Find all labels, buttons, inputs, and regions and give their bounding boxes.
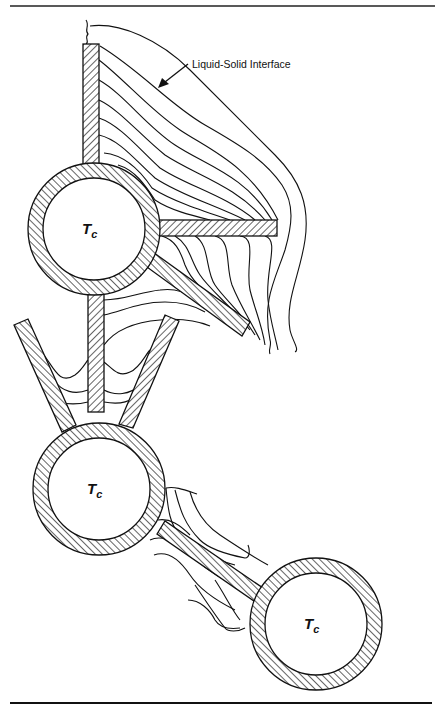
tube-3-assembly: Tc	[157, 521, 382, 690]
interface-annotation: Liquid-Solid Interface	[158, 58, 291, 88]
fin-horizontal	[150, 220, 277, 236]
figure-canvas: Tc Tc Tc Liquid-Solid Interface	[0, 0, 439, 709]
fin-vertical-down	[88, 290, 104, 412]
fin-vertical-up	[83, 44, 99, 169]
fin-diagonal-lower	[157, 521, 263, 601]
annotation-arrow-shaft	[165, 64, 188, 82]
fin-v-right	[119, 315, 179, 428]
interface-label: Liquid-Solid Interface	[192, 58, 291, 70]
fin-v-left	[14, 319, 76, 432]
fin-diagonal	[140, 250, 250, 336]
